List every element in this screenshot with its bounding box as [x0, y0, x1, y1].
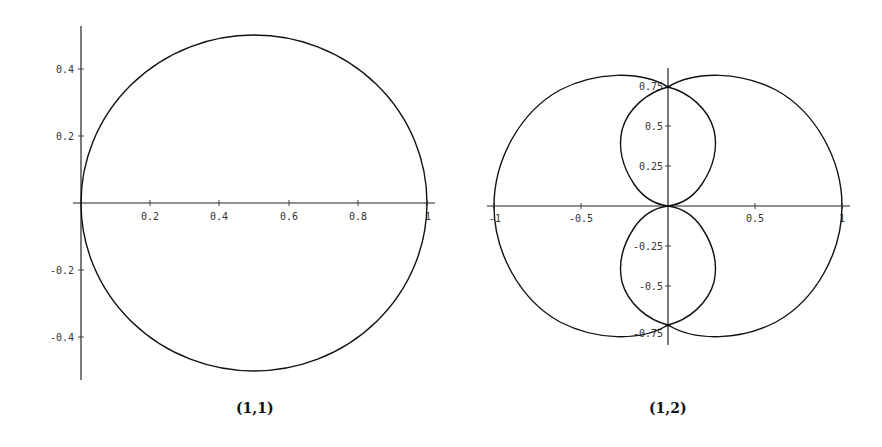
x-tick-label: 0.4 — [210, 211, 228, 222]
plot-left: 0.2 0.4 0.6 0.8 1 0.4 0.2 -0.2 -0.4 — [50, 26, 435, 380]
y-tick-label: -0.25 — [633, 241, 663, 252]
x-tick-label: 0.6 — [280, 211, 298, 222]
caption-right: (1,2) — [649, 400, 687, 416]
x-tick-label: 0.8 — [349, 211, 367, 222]
figure: 0.2 0.4 0.6 0.8 1 0.4 0.2 -0.2 -0.4 -1 -… — [0, 0, 882, 447]
y-tick-label: 0.5 — [645, 121, 663, 132]
x-tick-label: 0.5 — [746, 213, 764, 224]
y-tick-label: -0.2 — [50, 265, 74, 276]
x-tick-label: 0.2 — [141, 211, 159, 222]
y-tick-label: -0.4 — [50, 332, 74, 343]
plot-right: -1 -0.5 0.5 1 0.75 0.5 0.25 -0.25 -0.5 -… — [487, 68, 850, 345]
y-tick-label: 0.2 — [56, 131, 74, 142]
y-tick-label: 0.25 — [639, 161, 663, 172]
y-tick-label: -0.5 — [639, 281, 663, 292]
y-tick-label: 0.4 — [56, 64, 74, 75]
caption-left: (1,1) — [236, 400, 274, 416]
x-tick-label: -0.5 — [569, 213, 593, 224]
